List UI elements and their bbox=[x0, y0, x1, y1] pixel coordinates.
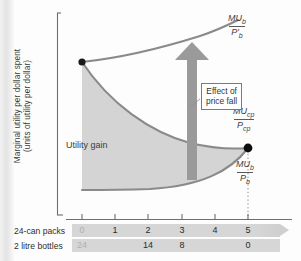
cell-packs-1: 1 bbox=[106, 225, 124, 235]
callout-line2: price fall bbox=[206, 96, 237, 106]
row-label-packs: 24-can packs bbox=[14, 226, 65, 236]
callout-line1: Effect of bbox=[206, 86, 237, 96]
utility-gain-label: Utility gain bbox=[66, 140, 108, 150]
cell-packs-0: 0 bbox=[73, 225, 91, 235]
table-row: 24-can packs 0 1 2 3 4 5 bbox=[0, 224, 301, 239]
y-axis-title-line2: (units of utility per dollar) bbox=[23, 60, 32, 152]
curve-label-mub-pb-prime: MUb P′b bbox=[228, 14, 246, 39]
row-label-bottles: 2 litre bottles bbox=[14, 241, 63, 251]
fraction-numerator: MUb bbox=[228, 14, 246, 26]
fraction-denominator: P′b bbox=[228, 27, 246, 39]
economics-figure: Marginal utility per dollar spent (units… bbox=[0, 0, 301, 261]
y-axis-title: Marginal utility per dollar spent (units… bbox=[13, 36, 33, 176]
cell-bottles-2: 14 bbox=[139, 240, 157, 250]
table-row: 2 litre bottles 24 14 8 0 bbox=[0, 239, 301, 254]
row-band-arrow-icon bbox=[280, 224, 289, 236]
curve-label-mub-pb: MUb Pb bbox=[236, 160, 254, 185]
curve-label-mucp-pcp: MUcp Pcp bbox=[233, 107, 254, 132]
cell-bottles-0: 24 bbox=[73, 240, 91, 250]
x-axis-ticks bbox=[82, 214, 248, 220]
curve-mub-pb-prime bbox=[82, 20, 238, 62]
cell-packs-4: 4 bbox=[206, 225, 224, 235]
cell-bottles-3: 8 bbox=[173, 240, 191, 250]
fraction-denominator: Pb bbox=[236, 173, 254, 185]
effect-of-price-fall-callout: Effect of price fall bbox=[201, 83, 242, 110]
quantity-table: 24-can packs 0 1 2 3 4 5 2 litre bottles… bbox=[0, 224, 301, 258]
y-axis-title-line1: Marginal utility per dollar spent bbox=[13, 49, 22, 163]
marker-origin-dot bbox=[78, 58, 85, 65]
plot-area bbox=[0, 0, 301, 261]
cell-packs-5: 5 bbox=[239, 225, 257, 235]
cell-packs-3: 3 bbox=[173, 225, 191, 235]
marker-end-dot bbox=[244, 144, 253, 153]
cell-bottles-5: 0 bbox=[239, 240, 257, 250]
cell-packs-2: 2 bbox=[139, 225, 157, 235]
fraction-numerator: MUb bbox=[236, 160, 254, 172]
fraction-denominator: Pcp bbox=[233, 120, 254, 132]
